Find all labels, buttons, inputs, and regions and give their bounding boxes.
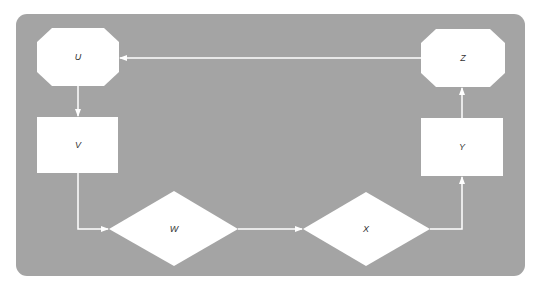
node-z-label: Z	[460, 53, 466, 63]
node-x-label: X	[363, 224, 369, 234]
edge-v-to-w	[78, 173, 108, 229]
node-y-label: Y	[459, 142, 465, 152]
node-u-label: U	[75, 52, 82, 62]
edge-x-to-y	[430, 177, 462, 229]
node-w-label: W	[170, 224, 179, 234]
node-v-label: V	[75, 140, 81, 150]
